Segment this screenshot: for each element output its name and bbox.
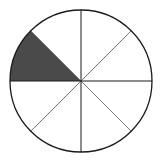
shaded-sector (10, 31, 81, 81)
fraction-circle-diagram (0, 0, 163, 163)
